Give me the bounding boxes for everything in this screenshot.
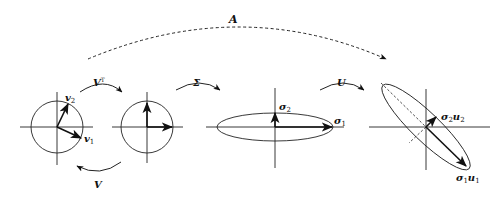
transform-sigma-arrow: Σ	[176, 77, 220, 90]
panel-rotated	[112, 92, 183, 163]
panel-scaled: σ2 σ1	[206, 88, 346, 168]
label-u: U	[337, 77, 347, 88]
transform-a-arrow: A	[88, 13, 386, 59]
vector-sigma1-u1	[426, 127, 466, 166]
vector-sigma2-u2	[426, 117, 436, 127]
label-sigma2: σ2	[279, 101, 291, 114]
vector-v1	[57, 127, 81, 138]
label-v: V	[94, 179, 103, 190]
minor-axis-dashed	[409, 127, 426, 143]
vector-v2	[57, 104, 68, 127]
panel-input: v2 v1	[20, 92, 94, 165]
transform-u-arrow: U	[320, 77, 364, 90]
transform-vt-arrow: VT	[80, 76, 122, 92]
label-sigma2-u2: σ2u2	[441, 111, 465, 124]
label-v1: v1	[84, 133, 94, 146]
major-axis-dashed	[381, 83, 426, 127]
label-vt: VT	[93, 76, 105, 88]
transform-v-arrow: V	[77, 162, 121, 190]
svd-diagram: A v2 v1 VT V Σ σ2 σ1	[0, 0, 502, 197]
panel-output: σ2u2 σ1u1	[369, 75, 490, 185]
label-sigma: Σ	[192, 77, 201, 88]
label-a: A	[228, 13, 238, 26]
label-sigma1-u1: σ1u1	[456, 172, 480, 185]
label-sigma1: σ1	[334, 115, 346, 128]
